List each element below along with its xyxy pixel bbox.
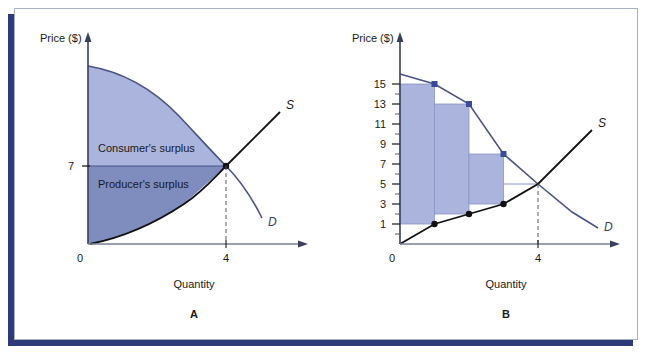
y-tick-label-5: 5 xyxy=(380,178,386,190)
y-tick-label-7: 7 xyxy=(380,158,386,170)
panel-a-svg: 7 4 0 Price ($) Quantity S D Consumer's … xyxy=(14,8,326,332)
y-axis-label: Price ($) xyxy=(40,32,82,44)
y-tick-label-11: 11 xyxy=(375,118,386,130)
y-axis-label: Price ($) xyxy=(352,32,394,44)
panel-a: 7 4 0 Price ($) Quantity S D Consumer's … xyxy=(14,8,326,332)
figure-container: 7 4 0 Price ($) Quantity S D Consumer's … xyxy=(0,0,655,357)
frame-shadow-bottom xyxy=(8,339,633,346)
origin-label: 0 xyxy=(77,252,83,264)
surplus-bar-1 xyxy=(400,84,435,224)
origin-label: 0 xyxy=(389,252,395,264)
supply-point-2 xyxy=(466,211,472,217)
y-tick-label-13: 13 xyxy=(374,98,386,110)
y-tick-label-3: 3 xyxy=(380,198,386,210)
y-tick-label-9: 9 xyxy=(380,138,386,150)
y-tick-label-7: 7 xyxy=(68,160,74,172)
x-axis-arrow-icon xyxy=(610,241,620,248)
demand-point-1 xyxy=(432,81,438,87)
supply-curve-label: S xyxy=(598,116,606,130)
x-axis-label: Quantity xyxy=(174,278,215,290)
y-axis-arrow-icon xyxy=(397,32,404,42)
panel-b-svg: 15 13 11 9 7 5 3 1 4 0 Price ($) Quantit… xyxy=(326,8,638,332)
panel-b-label: B xyxy=(502,308,510,320)
y-tick-label-15: 15 xyxy=(374,78,386,90)
demand-curve-label: D xyxy=(268,215,277,229)
y-tick-label-1: 1 xyxy=(380,218,386,230)
panel-a-label: A xyxy=(190,308,198,320)
y-ticks-group xyxy=(392,84,400,234)
x-tick-label-4: 4 xyxy=(535,252,541,264)
x-tick-label-4: 4 xyxy=(223,252,229,264)
demand-curve-label: D xyxy=(604,220,613,234)
x-axis-label: Quantity xyxy=(486,278,527,290)
surplus-bar-2 xyxy=(435,104,470,214)
demand-point-3 xyxy=(501,151,507,157)
producer-surplus-label: Producer's surplus xyxy=(98,178,189,190)
y-axis-arrow-icon xyxy=(85,32,92,42)
x-axis-arrow-icon xyxy=(298,241,308,248)
consumer-surplus-label: Consumer's surplus xyxy=(98,142,195,154)
supply-point-3 xyxy=(500,201,506,207)
panel-b: 15 13 11 9 7 5 3 1 4 0 Price ($) Quantit… xyxy=(326,8,638,332)
supply-point-1 xyxy=(431,221,437,227)
supply-curve-label: S xyxy=(286,98,294,112)
demand-point-2 xyxy=(466,101,472,107)
surplus-bar-3 xyxy=(469,154,504,204)
